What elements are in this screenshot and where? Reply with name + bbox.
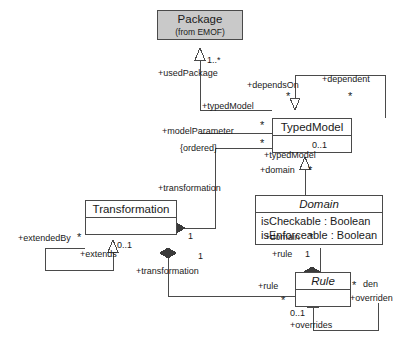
label-extended-by: +extendedBy: [18, 233, 71, 244]
label-dependent: +dependent: [322, 74, 370, 85]
mult-typedmodel-lower: *: [260, 139, 264, 147]
mult-extended-by: *: [77, 233, 81, 241]
label-extends: +extends: [80, 249, 117, 260]
label-typed-model-domain: +typedModel: [264, 150, 316, 161]
class-transformation-attrs-compartment: [86, 217, 176, 234]
class-rule-attrs-compartment: [296, 289, 350, 306]
label-used-package: +usedPackage: [158, 68, 218, 79]
label-rule-domain: +rule: [272, 249, 292, 260]
label-rule-transformation: +rule: [258, 281, 278, 292]
label-transformation-param: +transformation: [158, 183, 221, 194]
class-transformation[interactable]: Transformation: [85, 200, 177, 235]
mult-package: 1..*: [207, 55, 221, 66]
class-domain-name: Domain: [256, 196, 382, 212]
class-package-name: Package: [158, 11, 242, 27]
label-typed-model-package: +typedModel: [202, 101, 254, 112]
class-rule-name: Rule: [296, 273, 350, 289]
class-package[interactable]: Package (from EMOF): [157, 10, 243, 40]
class-domain-attribute: isCheckable : Boolean: [261, 214, 377, 228]
mult-overriden: *: [352, 281, 356, 289]
label-model-parameter: +modelParameter: [162, 126, 234, 137]
label-den-clipped: den: [363, 279, 378, 290]
mult-domain-rule: *: [309, 233, 313, 241]
mult-transformation-rule: 1: [198, 251, 203, 262]
class-package-stereotype: (from EMOF): [158, 27, 242, 39]
mult-rule-star-left: *: [281, 296, 285, 304]
mult-typedmodel-upper: *: [260, 121, 264, 129]
class-transformation-name: Transformation: [86, 201, 176, 217]
class-typedmodel-name: TypedModel: [273, 119, 351, 135]
label-ordered-constraint: {ordered}: [180, 143, 217, 154]
mult-transformation-param: 1: [188, 231, 193, 242]
mult-extends: 0..1: [117, 240, 132, 251]
mult-overrides: 0..1: [290, 308, 305, 319]
mult-dependent: *: [348, 92, 352, 100]
used-package-arrowhead: [195, 48, 205, 60]
label-depends-on: +dependsOn: [247, 80, 299, 91]
label-domain-rule: +domain: [265, 232, 300, 243]
mult-domain: *: [308, 166, 312, 174]
mult-rule-one: 1: [305, 249, 310, 260]
label-overriden: +overriden: [350, 293, 393, 304]
uml-class-diagram: Package (from EMOF) TypedModel Domain is…: [0, 0, 414, 353]
mult-typedmodel-domain: 0..1: [312, 140, 327, 151]
diamond-transformation-rule: [160, 248, 176, 258]
label-transformation-rule: +transformation: [136, 266, 199, 277]
mult-depends-on: *: [286, 92, 290, 100]
class-rule[interactable]: Rule: [295, 272, 351, 307]
label-domain-typedmodel: +domain: [260, 165, 295, 176]
depends-on-arrowhead: [290, 98, 300, 110]
label-overrides: +overrides: [290, 320, 332, 331]
